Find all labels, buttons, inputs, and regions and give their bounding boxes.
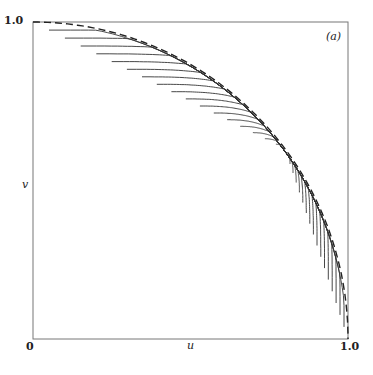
x-axis-label: u bbox=[187, 339, 194, 352]
y-tick-1: 1.0 bbox=[4, 14, 23, 27]
contour-line bbox=[265, 139, 290, 164]
plot-frame bbox=[33, 22, 348, 339]
contour-line bbox=[186, 99, 310, 224]
origin-tick: 0 bbox=[26, 340, 34, 353]
contour-line bbox=[253, 133, 293, 173]
contour-line bbox=[96, 54, 332, 291]
contour-line bbox=[276, 144, 287, 155]
contour-lines bbox=[49, 30, 344, 327]
y-axis-label: v bbox=[22, 178, 28, 191]
panel-label: (a) bbox=[326, 30, 341, 43]
x-tick-1: 1.0 bbox=[340, 340, 359, 353]
dashed-envelope bbox=[33, 22, 348, 339]
contour-line bbox=[49, 30, 344, 327]
contour-plot bbox=[0, 0, 373, 375]
contour-line bbox=[81, 46, 336, 303]
contour-line bbox=[142, 77, 321, 257]
